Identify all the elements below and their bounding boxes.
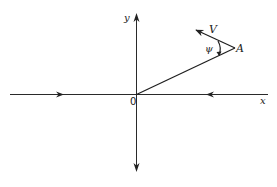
- point-a-label: A: [235, 42, 244, 55]
- angle-psi-label: ψ: [205, 43, 213, 54]
- y-axis-label: y: [123, 12, 130, 23]
- y-axis: [134, 13, 140, 172]
- x-axis-label: x: [260, 95, 266, 106]
- position-line: [137, 48, 236, 95]
- origin-label: 0: [130, 96, 136, 107]
- diagram-canvas: y 0 x A V ψ: [0, 0, 277, 187]
- velocity-label: V: [209, 23, 218, 36]
- x-axis: [10, 92, 268, 98]
